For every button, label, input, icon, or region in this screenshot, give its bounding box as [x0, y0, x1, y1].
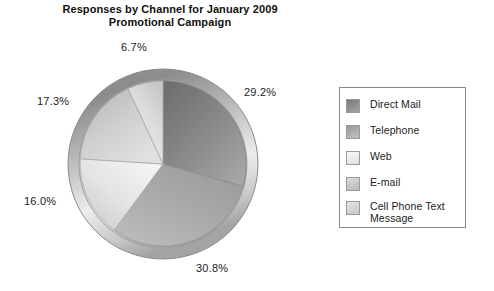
legend-item-web[interactable]: Web	[346, 150, 392, 165]
pie-chart-svg	[0, 0, 340, 291]
legend-item-telephone[interactable]: Telephone	[346, 124, 419, 139]
legend-label-direct-mail: Direct Mail	[370, 98, 421, 110]
legend-label-email: E-mail	[370, 176, 400, 188]
legend-label-web: Web	[370, 150, 392, 162]
legend-swatch-web	[346, 151, 360, 165]
legend-item-direct-mail[interactable]: Direct Mail	[346, 98, 421, 113]
pie-label-cell-phone-text-message: 6.7%	[121, 41, 147, 53]
chart-legend: Direct Mail Telephone Web E-mail Cell Ph…	[339, 87, 466, 228]
pie-chart-area: Responses by Channel for January 2009 Pr…	[0, 0, 340, 291]
pie-label-email: 17.3%	[37, 95, 69, 107]
pie-label-direct-mail: 29.2%	[244, 86, 276, 98]
legend-item-email[interactable]: E-mail	[346, 176, 400, 191]
legend-swatch-email	[346, 177, 360, 191]
pie-label-web: 16.0%	[24, 195, 56, 207]
pie-label-telephone: 30.8%	[196, 262, 228, 274]
legend-swatch-telephone	[346, 125, 360, 139]
legend-swatch-direct-mail	[346, 99, 360, 113]
legend-label-telephone: Telephone	[370, 124, 419, 136]
legend-item-cell-phone-text-message[interactable]: Cell Phone Text Message	[346, 200, 445, 224]
legend-swatch-cell-phone-text-message	[346, 201, 360, 215]
legend-label-cell-phone-text-message: Cell Phone Text Message	[370, 200, 445, 224]
